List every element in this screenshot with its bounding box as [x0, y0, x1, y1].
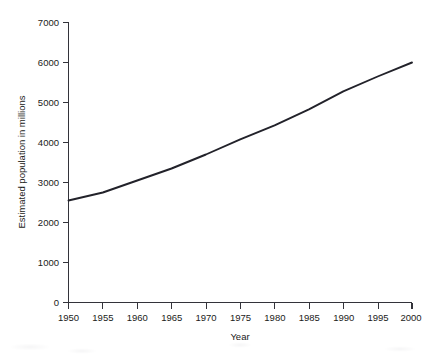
- y-tick-label-5000: 5000: [38, 97, 59, 108]
- x-tick-label-2000: 2000: [400, 312, 421, 323]
- y-tick-label-3000: 3000: [38, 177, 59, 188]
- x-axis-title: Year: [230, 331, 249, 342]
- y-tick-label-7000: 7000: [38, 17, 59, 28]
- x-tick-label-1990: 1990: [333, 312, 354, 323]
- x-tick-label-1995: 1995: [368, 312, 389, 323]
- y-axis-tick-labels: 0 1000 2000 3000 4000 5000 6000 7000: [38, 17, 59, 308]
- x-tick-label-1975: 1975: [230, 312, 251, 323]
- x-axis-tick-labels: 1950 1955 1960 1965 1970 1975 1980 1985 …: [58, 312, 422, 323]
- x-tick-label-1985: 1985: [299, 312, 320, 323]
- x-tick-label-1950: 1950: [58, 312, 79, 323]
- y-axis-ticks: [63, 23, 69, 303]
- x-tick-label-1955: 1955: [92, 312, 113, 323]
- x-axis-ticks: [69, 303, 413, 310]
- y-tick-label-2000: 2000: [38, 217, 59, 228]
- chart-svg: 0 1000 2000 3000 4000 5000 6000 7000: [0, 0, 446, 361]
- x-tick-label-1960: 1960: [127, 312, 148, 323]
- x-tick-label-1980: 1980: [264, 312, 285, 323]
- y-tick-label-6000: 6000: [38, 57, 59, 68]
- y-tick-label-0: 0: [54, 297, 59, 308]
- y-tick-label-4000: 4000: [38, 137, 59, 148]
- x-tick-label-1965: 1965: [161, 312, 182, 323]
- y-tick-label-1000: 1000: [38, 257, 59, 268]
- population-series-line: [69, 63, 413, 201]
- y-axis-title: Estimated population in millions: [16, 95, 27, 228]
- x-tick-label-1970: 1970: [196, 312, 217, 323]
- population-line-chart-figure: 0 1000 2000 3000 4000 5000 6000 7000: [0, 0, 446, 361]
- chart-plot-area: 0 1000 2000 3000 4000 5000 6000 7000: [0, 0, 446, 361]
